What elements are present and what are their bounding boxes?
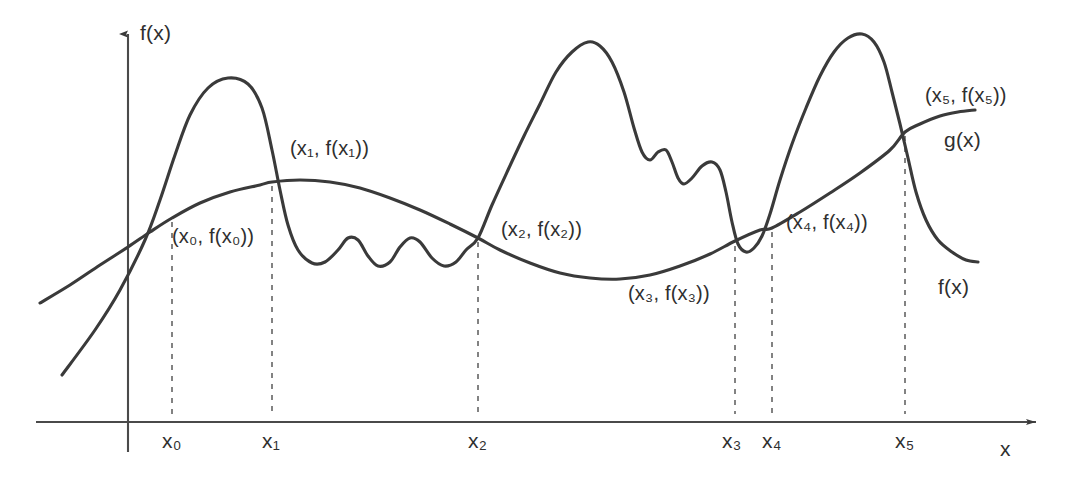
tick-label-x2: x₂ — [468, 430, 487, 451]
x-axis-label: x — [1000, 438, 1011, 459]
curve-label-g: g(x) — [944, 129, 981, 150]
point-label-x2: (x₂, f(x₂)) — [501, 219, 582, 239]
plot-canvas — [0, 0, 1078, 482]
y-axis-label: f(x) — [140, 22, 171, 43]
tick-label-x5: x₅ — [895, 430, 914, 451]
point-label-x4: (x₄, f(x₄)) — [786, 212, 868, 232]
tick-label-x4: x₄ — [762, 430, 781, 451]
drop-lines — [172, 136, 905, 414]
curve-label-f: f(x) — [938, 276, 969, 297]
tick-label-x0: x₀ — [162, 430, 182, 451]
tick-label-x1: x₁ — [262, 430, 280, 451]
tick-label-x3: x₃ — [722, 430, 741, 451]
point-label-x1: (x₁, f(x₁)) — [290, 138, 369, 158]
function-graph-figure: f(x) x g(x) f(x) (x₀, f(x₀)) (x₁, f(x₁))… — [0, 0, 1078, 482]
point-label-x3: (x₃, f(x₃)) — [628, 283, 710, 303]
point-label-x5: (x₅, f(x₅)) — [925, 85, 1007, 105]
point-label-x0: (x₀, f(x₀)) — [172, 226, 254, 246]
